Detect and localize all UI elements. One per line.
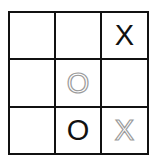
x-mark-outline-icon: X xyxy=(115,116,134,145)
cell-r1-c2[interactable] xyxy=(56,13,102,60)
cell-r3-c1[interactable] xyxy=(10,108,56,153)
o-mark-outline-icon: O xyxy=(67,69,90,98)
tic-tac-toe-board: X O O X xyxy=(8,11,149,155)
cell-r2-c3[interactable] xyxy=(102,60,147,108)
cell-r3-c2[interactable]: O xyxy=(56,108,102,153)
cell-r1-c1[interactable] xyxy=(10,13,56,60)
cell-r1-c3[interactable]: X xyxy=(102,13,147,60)
cell-r3-c3[interactable]: X xyxy=(102,108,147,153)
o-mark-icon: O xyxy=(67,116,90,145)
x-mark-icon: X xyxy=(115,21,134,50)
cell-r2-c1[interactable] xyxy=(10,60,56,108)
cell-r2-c2[interactable]: O xyxy=(56,60,102,108)
